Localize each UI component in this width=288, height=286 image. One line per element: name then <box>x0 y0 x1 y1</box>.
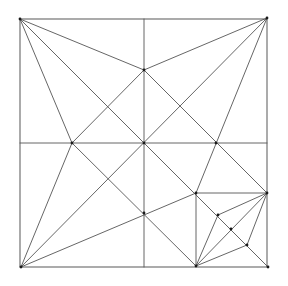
vertex-P <box>195 192 198 195</box>
vertex-S <box>246 244 249 247</box>
vertex-Q <box>217 214 220 217</box>
crease-line-L-F <box>72 143 196 266</box>
vertex-B <box>143 212 146 215</box>
vertex-L <box>71 142 74 145</box>
vertex-M <box>230 228 233 231</box>
crease-line-TR-P <box>196 18 267 193</box>
vertex-BR <box>267 266 270 269</box>
crease-pattern-canvas <box>0 0 288 286</box>
vertex-C <box>143 142 146 145</box>
crease-line-TR-T <box>144 18 267 70</box>
vertex-TR <box>266 17 269 20</box>
vertex-R <box>215 142 218 145</box>
vertex-BL <box>20 266 23 269</box>
vertex-T <box>143 69 146 72</box>
crease-pattern-diagram <box>0 0 288 286</box>
vertex-TL <box>19 18 22 21</box>
vertex-E <box>266 192 269 195</box>
crease-line-T-E <box>144 70 267 193</box>
vertex-F <box>195 265 198 268</box>
